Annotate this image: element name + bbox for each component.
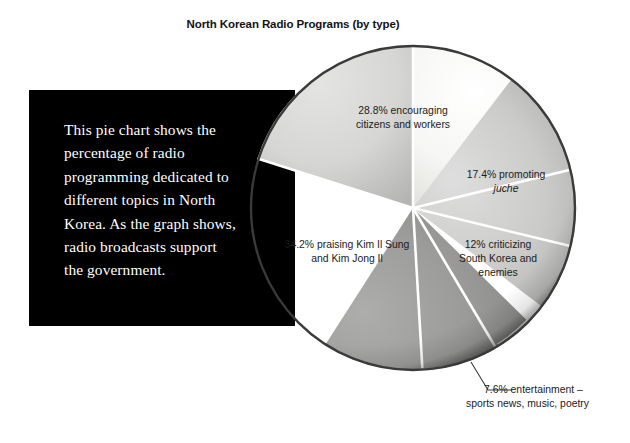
pie-chart (248, 43, 578, 373)
slice-label-praising: 34.2% praising Kim Il Sung and Kim Jong … (272, 238, 422, 266)
chart-canvas: North Korean Radio Programs (by type) Th… (0, 0, 630, 443)
slice-label-juche: 17.4% promoting juche (452, 168, 560, 196)
caption-text: This pie chart shows the percentage of r… (64, 118, 239, 282)
page-title: North Korean Radio Programs (by type) (0, 18, 630, 30)
slice-label-criticizing: 12% criticizing South Korea and enemies (444, 238, 552, 279)
slice-label-encouraging: 28.8% encouraging citizens and workers (333, 104, 473, 132)
slice-label-entertainment: 7.6% entertainment – sports news, music,… (484, 383, 589, 411)
pie-svg (248, 43, 578, 373)
chart-title-text: North Korean Radio Programs (by type) (187, 18, 400, 30)
